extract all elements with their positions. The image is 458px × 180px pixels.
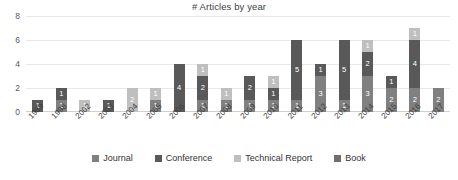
x-tick-slot: 2005 [144, 112, 168, 146]
bar-stack[interactable]: 241 [409, 28, 420, 112]
y-axis-tick: 0 [15, 108, 20, 117]
bar-value-label: 2 [201, 84, 205, 92]
chart-title: # Articles by year [0, 1, 458, 12]
bar-value-label: 1 [389, 78, 393, 86]
bar-slot: 31 [309, 16, 333, 112]
legend-item-journal[interactable]: Journal [92, 154, 133, 163]
bar-slot: 12 [238, 16, 262, 112]
bar-segment[interactable]: 2 [197, 76, 208, 100]
bar-slot: 15 [285, 16, 309, 112]
bar-slot: 2 [427, 16, 451, 112]
bar-segment[interactable]: 1 [386, 76, 397, 88]
legend-label: Journal [103, 154, 133, 163]
bar-segment[interactable]: 4 [409, 40, 420, 88]
bar-segment[interactable]: 5 [291, 40, 302, 100]
x-tick-slot: 2013 [332, 112, 356, 146]
bar-value-label: 1 [318, 66, 322, 74]
x-tick-slot: 2017 [427, 112, 451, 146]
bar-value-label: 5 [342, 66, 346, 74]
legend-label: Conference [166, 154, 213, 163]
bar-segment[interactable]: 1 [362, 40, 373, 52]
x-tick-slot: 2014 [356, 112, 380, 146]
y-axis-tick: 8 [15, 12, 20, 21]
bar-segment[interactable]: 1 [150, 88, 161, 100]
bar-value-label: 1 [271, 78, 275, 86]
bar-slot: 1 [97, 16, 121, 112]
bar-value-label: 3 [366, 90, 370, 98]
bar-slot: 241 [403, 16, 427, 112]
bar-slot: 1 [26, 16, 50, 112]
legend-label: Technical Report [245, 154, 312, 163]
y-axis-tick: 6 [15, 36, 20, 45]
bar-stack[interactable]: 321 [362, 40, 373, 112]
bar-value-label: 4 [413, 60, 417, 68]
bar-segment[interactable]: 1 [268, 88, 279, 100]
y-axis-tick: 2 [15, 84, 20, 93]
bar-value-label: 5 [295, 66, 299, 74]
bar-slot: 111 [262, 16, 286, 112]
bar-slot: 11 [144, 16, 168, 112]
legend-item-book[interactable]: Book [334, 154, 366, 163]
legend-item-conference[interactable]: Conference [155, 154, 213, 163]
legend-swatch-icon [155, 155, 162, 162]
bar-slot: 321 [356, 16, 380, 112]
bar-value-label: 1 [271, 90, 275, 98]
bar-segment[interactable]: 2 [362, 52, 373, 76]
x-tick-slot: 1989 [26, 112, 50, 146]
bar-value-label: 1 [154, 90, 158, 98]
x-tick-slot: 2012 [309, 112, 333, 146]
bar-slot: 11 [215, 16, 239, 112]
bar-slot: 121 [191, 16, 215, 112]
legend-swatch-icon [334, 155, 341, 162]
x-tick-slot: 2007 [191, 112, 215, 146]
x-tick-slot: 2009 [238, 112, 262, 146]
bar-segment[interactable]: 1 [409, 28, 420, 40]
bar-slot: 15 [332, 16, 356, 112]
legend-swatch-icon [92, 155, 99, 162]
bar-slot: 4 [167, 16, 191, 112]
bar-segment[interactable]: 1 [315, 64, 326, 76]
bar-segment[interactable]: 1 [268, 76, 279, 88]
bar-value-label: 1 [413, 30, 417, 38]
bar-slot: 1 [73, 16, 97, 112]
bar-value-label: 1 [59, 90, 63, 98]
bar-slot: 21 [379, 16, 403, 112]
x-tick-slot: 2016 [403, 112, 427, 146]
bar-slot: 2 [120, 16, 144, 112]
bar-segment[interactable]: 1 [56, 88, 67, 100]
bar-segment[interactable]: 5 [339, 40, 350, 100]
chart-legend: JournalConferenceTechnical ReportBook [0, 150, 458, 166]
bar-value-label: 2 [366, 60, 370, 68]
bar-stack[interactable]: 15 [291, 40, 302, 112]
x-tick-slot: 2015 [379, 112, 403, 146]
x-tick-slot: 1998 [50, 112, 74, 146]
y-axis-tick: 4 [15, 60, 20, 69]
x-tick-slot: 2011 [285, 112, 309, 146]
bar-segment[interactable]: 2 [244, 76, 255, 100]
x-tick-slot: 2006 [167, 112, 191, 146]
x-axis: 1989199820022003200420052006200720082009… [26, 112, 450, 146]
bar-slot: 11 [50, 16, 74, 112]
chart-container: # Articles by year 02468 111112114121111… [0, 0, 458, 180]
bar-value-label: 2 [248, 84, 252, 92]
bars-layer: 1111121141211112111153115321212412 [26, 16, 450, 112]
bar-value-label: 3 [318, 90, 322, 98]
bar-value-label: 4 [177, 84, 181, 92]
bar-segment[interactable]: 1 [221, 88, 232, 100]
x-tick-slot: 2004 [120, 112, 144, 146]
bar-value-label: 1 [201, 66, 205, 74]
bar-value-label: 1 [366, 42, 370, 50]
x-tick-slot: 2010 [262, 112, 286, 146]
x-tick-slot: 2003 [97, 112, 121, 146]
bar-segment[interactable]: 1 [197, 64, 208, 76]
legend-item-technical-report[interactable]: Technical Report [234, 154, 312, 163]
x-tick-slot: 2002 [73, 112, 97, 146]
x-tick-slot: 2008 [215, 112, 239, 146]
legend-label: Book [345, 154, 366, 163]
y-axis: 02468 [0, 16, 24, 112]
legend-swatch-icon [234, 155, 241, 162]
bar-value-label: 1 [224, 90, 228, 98]
